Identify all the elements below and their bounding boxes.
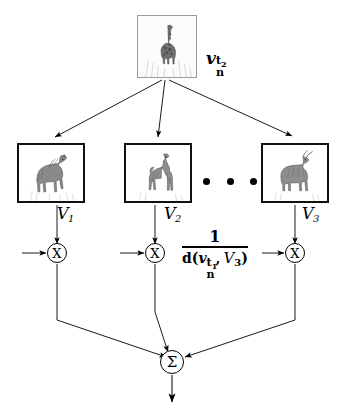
candidate-label-1-sub: 1 (68, 213, 74, 224)
distance-fn: d (182, 250, 192, 266)
figure-canvas: vt2n V1 (0, 0, 343, 413)
candidate-label-2-base: V (164, 204, 175, 223)
fraction-bar (182, 246, 248, 248)
candidate-image-box-2 (124, 143, 192, 203)
ellipsis-dot (227, 178, 234, 185)
paren-close: ) (241, 250, 248, 266)
sum-node: Σ (160, 350, 184, 374)
ellipsis-dot (250, 178, 257, 185)
candidate-image-box-1 (17, 143, 85, 203)
candidate-label-1-base: V (57, 204, 68, 223)
multiply-node-1: X (47, 243, 67, 263)
ellipsis-dots (203, 176, 257, 186)
query-label: vt2n (206, 50, 216, 67)
query-label-base: v (206, 48, 216, 68)
camel-image (126, 145, 190, 201)
horse-image (19, 145, 83, 201)
query-label-subscript: n (216, 67, 224, 78)
formula-numerator: 1 (182, 229, 248, 245)
candidate-label-2: V2 (164, 206, 181, 222)
weight-formula: 1 d(vt1n,V3) (182, 229, 248, 267)
candidate-label-3-base: V (302, 204, 313, 223)
arg2-base: V (223, 249, 234, 267)
multiply-node-3: X (285, 243, 305, 263)
query-to-candidates-arrows (55, 80, 292, 137)
formula-denominator: d(vt1n,V3) (182, 249, 248, 267)
candidate-label-3-sub: 3 (313, 213, 319, 224)
candidate-label-2-sub: 2 (175, 213, 181, 224)
arg1-sub: n (207, 266, 215, 284)
antelope-image (263, 145, 327, 201)
candidate-label-3: V3 (302, 206, 319, 222)
query-image-box (137, 15, 197, 78)
candidate-image-box-3 (261, 143, 329, 203)
ellipsis-dot (203, 178, 210, 185)
candidate-label-1: V1 (57, 206, 74, 222)
multiplier-to-sum-arrows (57, 264, 295, 357)
multiply-node-2: X (145, 243, 165, 263)
giraffe-image (138, 16, 196, 77)
arg1-base: v (198, 250, 206, 266)
